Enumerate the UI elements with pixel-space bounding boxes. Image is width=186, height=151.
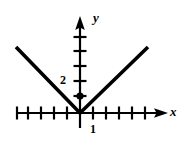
- y-axis-label: y: [93, 11, 99, 24]
- y-tick-label-2: 2: [60, 74, 66, 86]
- graph-figure: y x 2 1: [0, 0, 186, 151]
- x-tick-label-1: 1: [90, 123, 96, 135]
- filled-point-marker: [76, 92, 83, 99]
- x-axis-group: [16, 107, 168, 120]
- x-axis-label: x: [170, 105, 177, 118]
